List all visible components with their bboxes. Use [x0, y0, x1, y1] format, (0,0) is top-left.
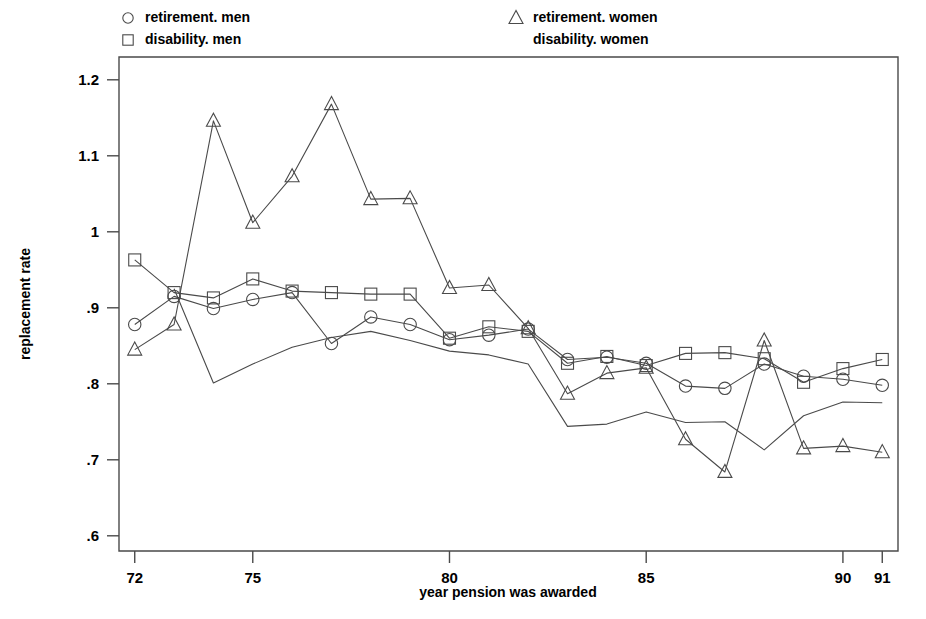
x-tick-label: 75 [244, 569, 261, 586]
y-tick-label: 1.1 [78, 147, 99, 164]
series-retirement-men [129, 286, 889, 394]
x-tick-label: 91 [874, 569, 891, 586]
y-tick-label: 1.2 [78, 71, 99, 88]
legend-label: retirement. men [145, 9, 250, 25]
series-disability-women [174, 289, 882, 450]
x-tick-label: 90 [835, 569, 852, 586]
y-tick-label: 1 [91, 223, 99, 240]
y-tick-label: .9 [86, 299, 99, 316]
series-line [135, 104, 883, 472]
legend-label: disability. men [145, 31, 241, 47]
replacement-rate-line-chart: retirement. mendisability. menretirement… [0, 0, 926, 619]
chart-root: retirement. mendisability. menretirement… [0, 0, 926, 619]
legend-marker-triangle [509, 10, 523, 23]
data-point-marker [876, 353, 888, 365]
data-point-marker [206, 113, 220, 126]
plot-frame [119, 57, 898, 551]
series-retirement-women [128, 97, 890, 478]
y-tick-label: .6 [86, 527, 99, 544]
series-line [174, 289, 882, 450]
x-axis-ticks: 727580859091 [126, 551, 890, 586]
y-tick-label: .8 [86, 375, 99, 392]
data-point-marker [876, 379, 888, 391]
data-point-marker [482, 277, 496, 290]
legend-label: retirement. women [533, 9, 657, 25]
legend-marker-square [123, 35, 133, 45]
data-point-marker [129, 318, 141, 330]
y-axis-ticks: .6.7.8.911.11.2 [78, 71, 119, 544]
legend-label: disability. women [533, 31, 649, 47]
data-point-marker [836, 439, 850, 452]
y-tick-label: .7 [86, 451, 99, 468]
legend-marker-circle [123, 13, 133, 23]
data-series-group [128, 97, 890, 478]
data-point-marker [325, 97, 339, 110]
x-tick-label: 72 [126, 569, 143, 586]
chart-legend: retirement. mendisability. menretirement… [123, 9, 658, 47]
y-axis-title: replacement rate [17, 248, 33, 360]
x-axis-title: year pension was awarded [419, 584, 596, 600]
data-point-marker [757, 333, 771, 346]
data-point-marker [403, 191, 417, 204]
x-tick-label: 85 [638, 569, 655, 586]
data-point-marker [128, 342, 142, 355]
